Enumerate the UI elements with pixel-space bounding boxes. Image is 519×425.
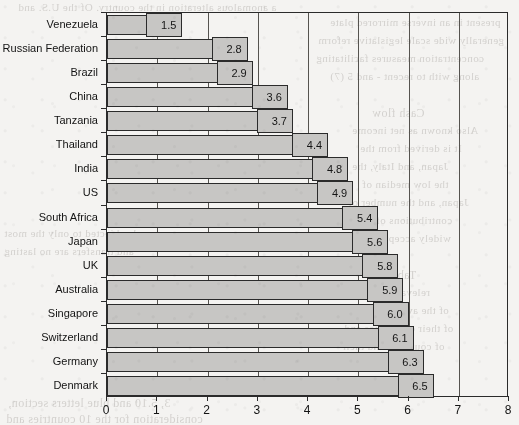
value-tick-3 <box>257 396 258 401</box>
value-tick-label-6: 6 <box>396 403 420 417</box>
category-label-australia: Australia <box>0 283 98 295</box>
value-axis: 012345678 <box>106 396 508 425</box>
value-tick-2 <box>207 396 208 401</box>
bar-row: 6.1 <box>107 326 507 350</box>
bar-row: 3.7 <box>107 109 507 133</box>
bar-value-label: 6.0 <box>373 302 409 326</box>
value-tick-0 <box>106 396 107 401</box>
bar-japan <box>107 232 388 252</box>
value-tick-label-1: 1 <box>144 403 168 417</box>
category-label-russian-federation: Russian Federation <box>0 42 98 54</box>
bar-value-label: 6.1 <box>378 326 414 350</box>
bar-row: 6.0 <box>107 302 507 326</box>
value-tick-label-3: 3 <box>245 403 269 417</box>
value-tick-label-7: 7 <box>446 403 470 417</box>
bar-value-label: 2.8 <box>212 37 248 61</box>
category-label-singapore: Singapore <box>0 307 98 319</box>
value-tick-7 <box>458 396 459 401</box>
category-label-germany: Germany <box>0 355 98 367</box>
bar-value-label: 1.5 <box>146 13 182 37</box>
bar-value-label: 5.6 <box>352 230 388 254</box>
bar-series: 1.52.82.93.63.74.44.84.95.45.65.85.96.06… <box>107 13 507 396</box>
category-label-tanzania: Tanzania <box>0 114 98 126</box>
category-label-brazil: Brazil <box>0 66 98 78</box>
bar-row: 6.5 <box>107 374 507 398</box>
bar-value-label: 5.8 <box>362 254 398 278</box>
bar-row: 2.9 <box>107 61 507 85</box>
bar-row: 4.8 <box>107 157 507 181</box>
plot-area: 1.52.82.93.63.74.44.84.95.45.65.85.96.06… <box>106 12 508 397</box>
category-label-uk: UK <box>0 259 98 271</box>
value-tick-8 <box>508 396 509 401</box>
bar-value-label: 2.9 <box>217 61 253 85</box>
bar-value-label: 6.5 <box>398 374 434 398</box>
bar-germany <box>107 352 424 372</box>
category-label-us: US <box>0 186 98 198</box>
bar-row: 3.6 <box>107 85 507 109</box>
category-label-india: India <box>0 162 98 174</box>
category-label-japan: Japan <box>0 235 98 247</box>
bar-south-africa <box>107 208 378 228</box>
value-tick-1 <box>156 396 157 401</box>
value-tick-label-0: 0 <box>94 403 118 417</box>
bar-uk <box>107 256 398 276</box>
value-tick-label-8: 8 <box>496 403 519 417</box>
bar-row: 6.3 <box>107 350 507 374</box>
category-axis-labels: VenezuelaRussian FederationBrazilChinaTa… <box>0 12 102 397</box>
category-label-south-africa: South Africa <box>0 211 98 223</box>
category-label-china: China <box>0 90 98 102</box>
bar-value-label: 5.4 <box>342 206 378 230</box>
bar-row: 5.9 <box>107 278 507 302</box>
horizontal-bar-chart: VenezuelaRussian FederationBrazilChinaTa… <box>0 0 519 425</box>
value-tick-label-5: 5 <box>345 403 369 417</box>
bar-value-label: 4.8 <box>312 157 348 181</box>
bar-value-label: 3.7 <box>257 109 293 133</box>
bar-row: 5.4 <box>107 206 507 230</box>
bar-value-label: 3.6 <box>252 85 288 109</box>
bar-singapore <box>107 304 409 324</box>
bar-value-label: 4.4 <box>292 133 328 157</box>
bar-row: 5.6 <box>107 230 507 254</box>
bar-australia <box>107 280 403 300</box>
category-label-thailand: Thailand <box>0 138 98 150</box>
bar-row: 2.8 <box>107 37 507 61</box>
category-label-switzerland: Switzerland <box>0 331 98 343</box>
value-tick-label-2: 2 <box>195 403 219 417</box>
value-tick-5 <box>357 396 358 401</box>
category-label-denmark: Denmark <box>0 379 98 391</box>
value-tick-6 <box>408 396 409 401</box>
bar-value-label: 5.9 <box>367 278 403 302</box>
bar-row: 4.4 <box>107 133 507 157</box>
category-label-venezuela: Venezuela <box>0 18 98 30</box>
value-tick-label-4: 4 <box>295 403 319 417</box>
value-tick-4 <box>307 396 308 401</box>
bar-switzerland <box>107 328 414 348</box>
bar-row: 4.9 <box>107 181 507 205</box>
bar-value-label: 6.3 <box>388 350 424 374</box>
bar-value-label: 4.9 <box>317 181 353 205</box>
bar-row: 1.5 <box>107 13 507 37</box>
bar-row: 5.8 <box>107 254 507 278</box>
bar-denmark <box>107 376 434 396</box>
